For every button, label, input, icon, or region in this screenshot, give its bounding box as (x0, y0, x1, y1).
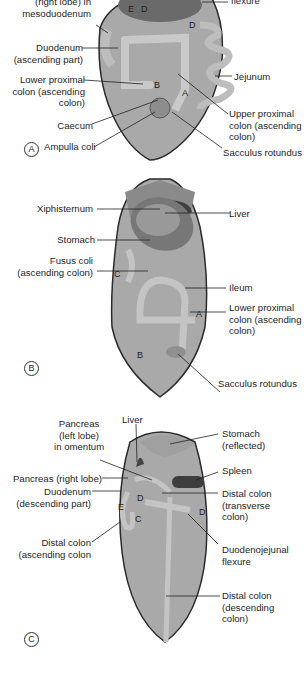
letter-b: B (154, 80, 160, 90)
label-liver: Liver (122, 414, 143, 426)
label-duodenojejunal-flexure: Duodenojejunal flexure (222, 544, 289, 567)
panel-b: C A B Xiphisternum Liver Stomach Fusus c… (0, 172, 307, 402)
label-upper-proximal-colon: Upper proximal colon (ascending colon) (229, 108, 302, 143)
letter-b: B (137, 350, 143, 360)
letter-d: D (189, 20, 196, 30)
panel-marker-a: A (24, 142, 39, 157)
label-stomach: Stomach (57, 234, 95, 246)
panel-a: E D D B A (right lobe) in mesoduodenum f… (0, 0, 307, 172)
label-liver: Liver (229, 208, 250, 220)
label-pancreas-right-lobe: (right lobe) in mesoduodenum (22, 0, 91, 19)
label-fusus-coli: Fusus coli (ascending colon) (17, 255, 93, 278)
letter-c: C (135, 514, 142, 524)
label-spleen: Spleen (222, 465, 252, 477)
letter-d: D (141, 4, 148, 14)
label-distal-colon-ascending: Distal colon (ascending colon (18, 537, 91, 560)
label-stomach-reflected: Stomach (reflected) (222, 428, 265, 451)
letter-a: A (196, 309, 202, 319)
panel-marker-c: C (24, 632, 39, 647)
label-caecum: Caecum (57, 120, 93, 132)
label-sacculus-rotundus: Sacculus rotundus (223, 147, 302, 159)
letter-d: D (137, 493, 144, 503)
label-jejunum: Jejunum (234, 71, 270, 83)
letter-c: C (114, 269, 121, 279)
letter-e: E (118, 502, 124, 512)
label-lower-proximal-colon: Lower proximal colon (ascending colon) (12, 74, 85, 109)
letter-e: E (128, 4, 134, 14)
letter-d: D (199, 507, 206, 517)
label-flexure: flexure (231, 0, 260, 7)
label-duodenum-descending: Duodenum (descending part) (16, 486, 91, 509)
label-pancreas-left-lobe: Pancreas (left lobe) in omentum (54, 418, 104, 453)
label-duodenum-ascending: Duodenum (ascending part) (14, 42, 83, 65)
letter-a: A (182, 88, 188, 98)
panel-c: E D D C Liver Pancreas (left lobe) in om… (0, 402, 307, 690)
label-pancreas-right-lobe: Pancreas (right lobe) (13, 473, 102, 485)
panel-marker-b: B (24, 361, 39, 376)
label-ileum: Ileum (229, 282, 252, 294)
label-xiphisternum: Xiphisternum (37, 203, 93, 215)
label-lower-proximal-colon: Lower proximal colon (ascending colon) (229, 302, 302, 337)
label-distal-colon-descending: Distal colon (descending colon) (222, 590, 274, 625)
label-ampulla-coli: Ampulla coli (44, 141, 96, 153)
label-distal-colon-transverse: Distal colon (transverse colon) (222, 488, 272, 523)
label-sacculus-rotundus: Sacculus rotundus (218, 378, 297, 390)
